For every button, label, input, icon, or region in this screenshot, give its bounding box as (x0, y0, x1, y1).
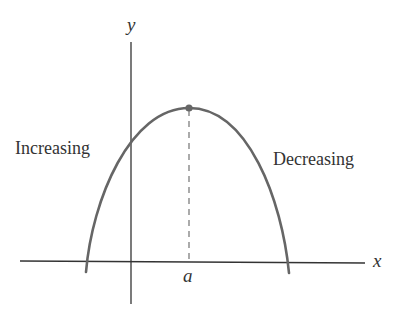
point-a-label: a (183, 265, 193, 287)
maximum-point (185, 104, 192, 111)
increasing-label: Increasing (15, 138, 90, 159)
decreasing-label: Decreasing (273, 149, 354, 170)
x-axis-label: x (373, 250, 381, 272)
x-axis (20, 261, 365, 263)
y-axis-label: y (127, 14, 135, 36)
parabola-curve (86, 108, 289, 273)
